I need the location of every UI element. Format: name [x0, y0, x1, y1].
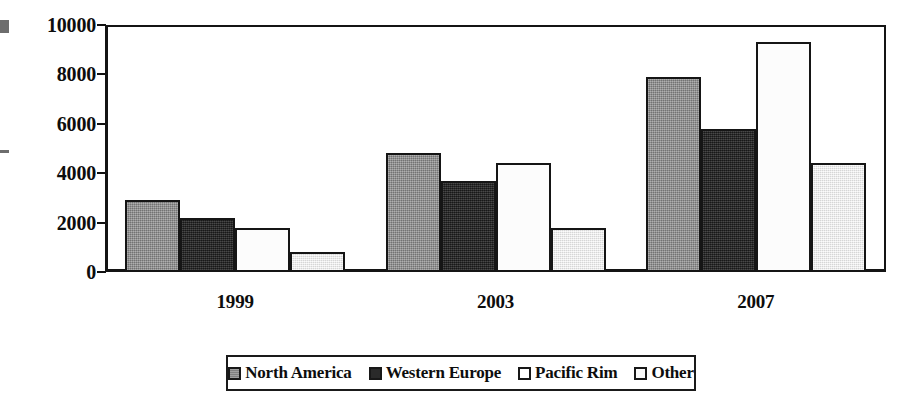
y-axis-tick-label: 6000: [18, 114, 96, 134]
legend-label: Western Europe: [386, 363, 501, 383]
x-axis-tick-label: 2007: [616, 292, 896, 311]
legend-swatch-other: [634, 367, 647, 380]
legend-label: Pacific Rim: [535, 363, 617, 383]
bar-western-europe-1999: [180, 218, 235, 272]
y-axis-tick-label: 2000: [18, 213, 96, 233]
bar-western-europe-2007: [701, 129, 756, 272]
bar-chart: 0200040006000800010000 199920032007 Nort…: [0, 0, 919, 410]
y-axis-tick-label: 0: [18, 262, 96, 282]
legend-swatch-western-europe: [369, 367, 382, 380]
scan-artifact-mark: [0, 150, 9, 153]
bar-other-2007: [811, 163, 866, 272]
bar-other-2003: [551, 228, 606, 272]
y-axis-tick-label: 8000: [18, 64, 96, 84]
legend-item-western-europe[interactable]: Western Europe: [369, 363, 501, 383]
plot-area: [105, 25, 886, 272]
legend-label: Other: [651, 363, 693, 383]
bar-north-america-1999: [125, 200, 180, 272]
legend-swatch-north-america: [228, 367, 241, 380]
scan-artifact-mark: [0, 20, 9, 33]
bar-other-1999: [290, 252, 345, 272]
legend-item-north-america[interactable]: North America: [228, 363, 351, 383]
y-axis-tick-label: 4000: [18, 163, 96, 183]
bar-north-america-2003: [386, 153, 441, 272]
bar-pacific-rim-2007: [756, 42, 811, 272]
bar-western-europe-2003: [441, 181, 496, 272]
x-axis-tick-label: 1999: [95, 292, 375, 311]
bar-pacific-rim-2003: [496, 163, 551, 272]
y-axis-labels: 0200040006000800010000: [18, 0, 96, 410]
legend-item-pacific-rim[interactable]: Pacific Rim: [518, 363, 617, 383]
bar-pacific-rim-1999: [235, 228, 290, 272]
x-axis-tick-label: 2003: [356, 292, 636, 311]
bar-north-america-2007: [646, 77, 701, 272]
y-axis-tick-label: 10000: [18, 15, 96, 35]
legend-item-other[interactable]: Other: [634, 363, 693, 383]
chart-legend: North AmericaWestern EuropePacific RimOt…: [226, 355, 696, 391]
legend-label: North America: [245, 363, 351, 383]
legend-swatch-pacific-rim: [518, 367, 531, 380]
